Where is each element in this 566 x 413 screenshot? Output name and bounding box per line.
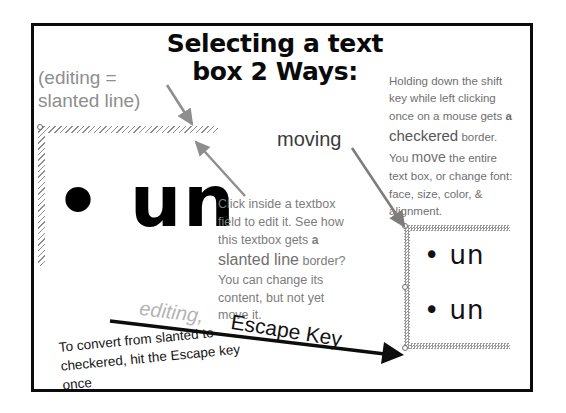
checkered-border-bottom xyxy=(404,343,510,349)
slide-canvas: Selecting a text box 2 Ways: (editing = … xyxy=(0,0,566,413)
right-paragraph-emphasis-big: checkered xyxy=(389,127,458,144)
resize-handle-icon[interactable] xyxy=(37,124,43,130)
slanted-border-top xyxy=(38,126,218,133)
moving-label: moving xyxy=(277,128,341,151)
page-title-line1: Selecting a text xyxy=(167,29,383,58)
center-paragraph: Click inside a textbox field to edit it.… xyxy=(218,196,346,325)
checkered-textbox-line1[interactable]: • un xyxy=(424,240,485,270)
center-paragraph-emphasis-big: slanted line xyxy=(218,251,299,268)
right-paragraph-part2b: the entire text box, or change font: fac… xyxy=(389,152,512,217)
slanted-border-left xyxy=(38,126,45,266)
resize-handle-icon[interactable] xyxy=(402,223,408,229)
editing-equals-line2: slanted line) xyxy=(38,89,198,112)
right-paragraph-move-emphasis: move xyxy=(412,149,446,165)
resize-handle-icon[interactable] xyxy=(402,345,408,351)
checkered-textbox-line2[interactable]: • un xyxy=(424,295,485,325)
slanted-textbox-content[interactable]: • un xyxy=(55,165,237,237)
right-paragraph: Holding down the shift key while left cl… xyxy=(389,73,515,220)
checkered-border-top xyxy=(404,225,510,231)
resize-handle-icon[interactable] xyxy=(402,284,408,290)
right-paragraph-part1: Holding down the shift key while left cl… xyxy=(389,75,502,122)
editing-equals-line1: (editing = xyxy=(38,67,117,88)
right-paragraph-emphasis-small: a xyxy=(505,110,511,122)
editing-equals-label: (editing = slanted line) xyxy=(38,66,198,112)
center-paragraph-emphasis-small: a xyxy=(312,233,319,247)
center-paragraph-part1: Click inside a textbox field to edit it.… xyxy=(218,197,344,247)
